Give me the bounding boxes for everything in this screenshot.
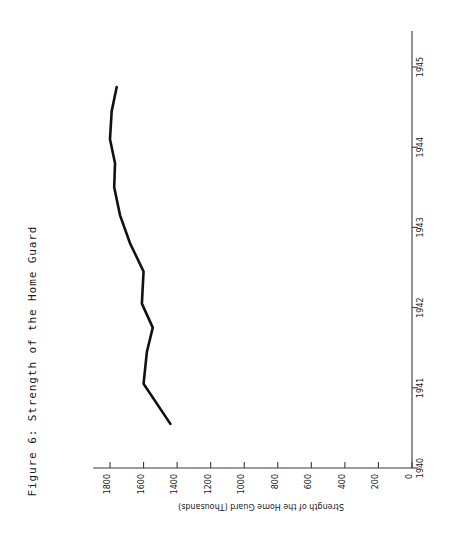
svg-text:600: 600 — [304, 474, 313, 489]
svg-text:400: 400 — [338, 474, 347, 489]
chart-axes — [93, 31, 412, 468]
figure-container: Figure 6: Strength of the Home Guard 020… — [0, 0, 460, 542]
svg-text:1940: 1940 — [416, 458, 425, 478]
svg-text:200: 200 — [371, 474, 380, 489]
svg-text:Strength of the Home Guard (Th: Strength of the Home Guard (Thousands) — [178, 502, 344, 511]
svg-text:1000: 1000 — [237, 474, 246, 494]
svg-text:800: 800 — [271, 474, 280, 489]
svg-text:1943: 1943 — [416, 217, 425, 237]
svg-text:1944: 1944 — [416, 137, 425, 157]
value-axis-tick-labels: 020040060080010001200140016001800 — [103, 474, 414, 494]
data-series-line — [110, 87, 170, 424]
svg-text:1600: 1600 — [137, 474, 146, 494]
svg-text:1942: 1942 — [416, 297, 425, 317]
svg-text:1400: 1400 — [170, 474, 179, 494]
year-axis-tick-labels: 194019411942194319441945 — [416, 57, 425, 478]
value-axis-title: Strength of the Home Guard (Thousands) — [178, 502, 344, 511]
svg-text:0: 0 — [405, 474, 414, 479]
chart-ticks — [110, 67, 418, 468]
svg-text:1200: 1200 — [204, 474, 213, 494]
svg-text:1941: 1941 — [416, 378, 425, 398]
chart-plot-area: 020040060080010001200140016001800 194019… — [0, 0, 460, 542]
svg-text:1945: 1945 — [416, 57, 425, 77]
svg-text:1800: 1800 — [103, 474, 112, 494]
